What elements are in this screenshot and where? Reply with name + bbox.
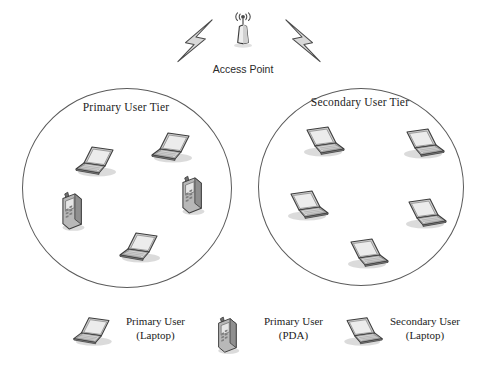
network-diagram-canvas: Access Point Primary User Tier Secondary… bbox=[0, 0, 486, 382]
access-point-antenna-icon bbox=[224, 12, 262, 50]
primary-user-tier-label: Primary User Tier bbox=[22, 101, 230, 113]
legend-line1: Primary User bbox=[264, 314, 323, 328]
secondary-laptop-4[interactable] bbox=[400, 194, 450, 230]
laptop-icon bbox=[70, 313, 118, 348]
secondary-laptop-3[interactable] bbox=[282, 186, 332, 222]
legend-label-primary-pda: Primary User (PDA) bbox=[264, 314, 323, 342]
primary-laptop-1[interactable] bbox=[72, 142, 122, 178]
legend-label-secondary-laptop: Secondary User (Laptop) bbox=[390, 314, 460, 342]
secondary-laptop-2[interactable] bbox=[398, 124, 448, 160]
access-point-label: Access Point bbox=[193, 63, 293, 75]
secondary-laptop-1[interactable] bbox=[298, 122, 348, 158]
legend-line2: (Laptop) bbox=[390, 328, 460, 342]
secondary-laptop-5[interactable] bbox=[342, 234, 392, 270]
legend-line1: Primary User bbox=[126, 314, 185, 328]
primary-laptop-2[interactable] bbox=[148, 128, 198, 164]
secondary-user-tier-label: Secondary User Tier bbox=[258, 96, 462, 108]
legend-label-primary-laptop: Primary User (Laptop) bbox=[126, 314, 185, 342]
legend-line2: (Laptop) bbox=[126, 328, 185, 342]
legend: Primary User (Laptop) Primary User (PDA)… bbox=[0, 305, 486, 367]
pda-icon bbox=[212, 313, 250, 361]
laptop-icon bbox=[338, 313, 386, 348]
primary-laptop-3[interactable] bbox=[116, 228, 166, 264]
primary-pda-2[interactable] bbox=[56, 188, 94, 236]
legend-line2: (PDA) bbox=[264, 328, 323, 342]
primary-pda-1[interactable] bbox=[176, 172, 214, 220]
legend-line1: Secondary User bbox=[390, 314, 460, 328]
